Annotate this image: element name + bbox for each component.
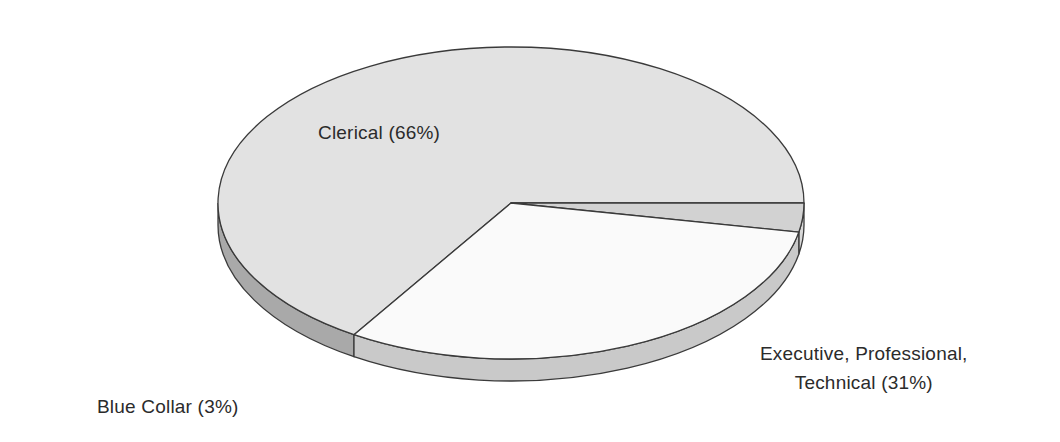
pie-label-executive-line2: Technical (31%) — [760, 369, 968, 398]
pie-label-executive: Executive, Professional,Technical (31%) — [760, 340, 968, 397]
pie-label-executive-line1: Executive, Professional, — [760, 343, 968, 364]
pie-label-clerical: Clerical (66%) — [318, 119, 440, 147]
pie-label-blue-collar: Blue Collar (3%) — [97, 393, 239, 421]
pie-chart-canvas: Clerical (66%) Executive, Professional,T… — [0, 0, 1060, 442]
